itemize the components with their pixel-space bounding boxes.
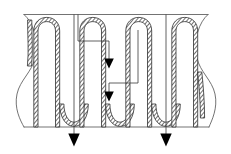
channel-pass-2 bbox=[80, 17, 106, 127]
serpentine-channel-diagram bbox=[0, 0, 231, 154]
plate-right-break-edge bbox=[196, 15, 216, 128]
channel-pass-1 bbox=[34, 17, 60, 127]
figure-root: Cut-away cross-section of a meandering s… bbox=[0, 0, 231, 154]
channel-pass-3 bbox=[126, 17, 152, 127]
channel-pass-4 bbox=[172, 17, 198, 127]
leader-lower-inner bbox=[109, 30, 138, 95]
flow-arrow-left-outer bbox=[68, 134, 79, 147]
channel-partial-leg-left bbox=[27, 20, 32, 66]
flow-arrow-right-outer bbox=[160, 134, 171, 147]
plate-outline bbox=[16, 15, 216, 128]
plate-left-break-edge bbox=[16, 15, 36, 128]
flow-leader-lines bbox=[74, 15, 166, 140]
serpentine-channel-walls bbox=[27, 17, 204, 127]
channel-partial-leg-right bbox=[198, 72, 205, 118]
